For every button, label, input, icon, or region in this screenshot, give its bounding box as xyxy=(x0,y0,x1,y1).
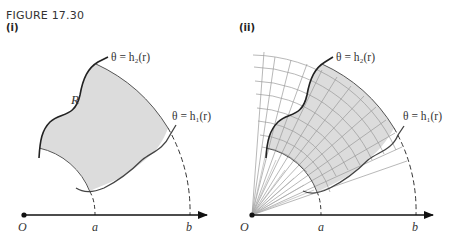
a-label-i: a xyxy=(92,220,98,234)
panel-i: R θ = h₂(r) θ = h₁(r) O a b xyxy=(18,51,211,234)
region-r xyxy=(40,64,168,191)
figure-canvas: R θ = h₂(r) θ = h₁(r) O a b xyxy=(0,0,474,241)
h1-label-i: θ = h₁(r) xyxy=(172,110,211,123)
origin-label-ii: O xyxy=(240,220,249,234)
region-label: R xyxy=(70,92,79,107)
panel-ii: θ = h₂(r) θ = h₁(r) O a b xyxy=(240,51,442,234)
b-label-ii: b xyxy=(412,220,418,234)
h2-label-ii: θ = h₂(r) xyxy=(336,51,375,64)
b-label-i: b xyxy=(186,220,192,234)
h1-label-ii: θ = h₁(r) xyxy=(403,110,442,123)
h2-label-i: θ = h₂(r) xyxy=(111,51,150,64)
origin-label-i: O xyxy=(18,220,27,234)
a-label-ii: a xyxy=(318,220,324,234)
